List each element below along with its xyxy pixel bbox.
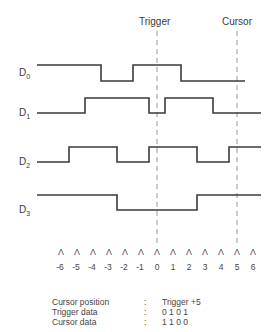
readout-cursor-position: Cursor position:Trigger +5 xyxy=(52,297,201,307)
tick-caret-icon: Λ xyxy=(138,247,144,257)
tick-caret-icon: Λ xyxy=(106,247,112,257)
tick-caret-icon: Λ xyxy=(58,247,64,257)
tick-caret-icon: Λ xyxy=(186,247,192,257)
channel-label-d1: D1 xyxy=(19,107,30,120)
tick-caret-icon: Λ xyxy=(90,247,96,257)
cursor-label: Cursor xyxy=(222,16,252,27)
tick-caret-icon: Λ xyxy=(250,247,256,257)
tick-caret-icon: Λ xyxy=(218,247,224,257)
readout-trigger-data: Trigger data:0 1 0 1 xyxy=(52,307,201,317)
tick-caret-icon: Λ xyxy=(74,247,80,257)
tick-caret-icon: Λ xyxy=(202,247,208,257)
readout-panel: Cursor position:Trigger +5 Trigger data:… xyxy=(52,297,201,327)
waveform-d3 xyxy=(37,195,261,210)
tick-caret-icon: Λ xyxy=(154,247,160,257)
readout-cursor-data: Cursor data:1 1 0 0 xyxy=(52,317,201,327)
waveform-d1 xyxy=(37,98,261,113)
waveform-d0 xyxy=(37,65,245,81)
waveform-d2 xyxy=(37,147,261,162)
channel-label-d0: D0 xyxy=(19,67,30,80)
tick-caret-icon: Λ xyxy=(234,247,240,257)
channel-label-d3: D3 xyxy=(19,204,30,217)
timing-diagram xyxy=(0,0,274,332)
tick-caret-icon: Λ xyxy=(170,247,176,257)
trigger-label: Trigger xyxy=(139,16,170,27)
tick-label: 6 xyxy=(243,262,263,272)
tick-caret-icon: Λ xyxy=(122,247,128,257)
channel-label-d2: D2 xyxy=(19,156,30,169)
